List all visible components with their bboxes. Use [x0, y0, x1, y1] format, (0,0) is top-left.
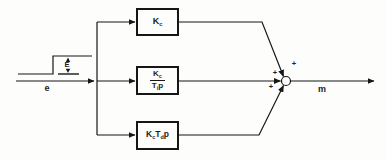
block-derivative: KcTdp	[136, 121, 179, 150]
output-label: m	[318, 85, 326, 94]
derivative-transfer-function: KcTdp	[146, 130, 169, 141]
diagram-wires	[0, 0, 387, 160]
summing-junction	[282, 77, 291, 86]
plus-sign-middle: +	[273, 69, 277, 77]
block-proportional: Kc	[136, 8, 179, 36]
block-diagram: Kc Kc Tip KcTdp e E m + + +	[0, 0, 387, 160]
plus-sign-bottom: +	[269, 83, 273, 91]
proportional-gain-label: Kc	[153, 17, 163, 28]
block-integral: Kc Tip	[136, 66, 179, 95]
input-label: e	[44, 84, 49, 93]
branch-arrows	[97, 22, 135, 135]
summer-input-arrows	[179, 22, 284, 135]
step-height-label: E	[64, 61, 69, 69]
integral-transfer-function: Kc Tip	[150, 70, 165, 92]
step-input-symbol	[18, 56, 92, 74]
plus-sign-top: +	[292, 60, 296, 68]
